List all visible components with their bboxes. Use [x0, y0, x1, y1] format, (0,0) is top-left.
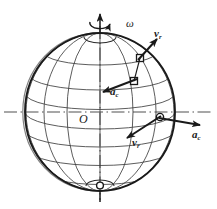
v-lower-label: vr	[132, 137, 140, 149]
v-upper-label: vr	[154, 28, 162, 40]
a-upper-label: ac	[110, 86, 119, 98]
rotating-sphere-diagram: ω O vr ac vr ac	[0, 0, 217, 209]
diagram-canvas	[0, 0, 217, 209]
a-upper-sub: c	[116, 91, 119, 98]
reference-axes	[4, 26, 213, 200]
omega-label: ω	[126, 18, 134, 29]
origin-label: O	[79, 113, 88, 125]
v-lower-sub: r	[137, 142, 140, 149]
vector-a-right	[159, 118, 200, 125]
v-upper-sub: r	[159, 33, 162, 40]
a-right-label: ac	[192, 129, 201, 141]
marker-pole-point	[97, 182, 104, 189]
a-right-sub: c	[198, 134, 201, 141]
